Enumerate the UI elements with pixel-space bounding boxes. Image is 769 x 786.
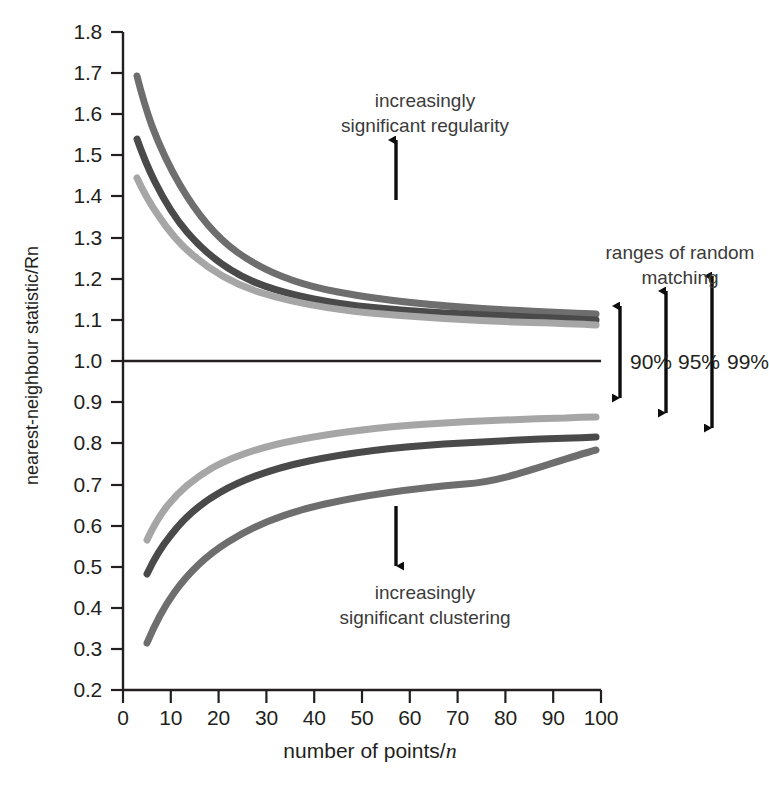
ytick-label: 0.8 — [40, 431, 102, 455]
xtick-label: 20 — [207, 706, 230, 730]
x-axis-title-variable: n — [446, 738, 457, 763]
ytick-label: 0.5 — [40, 555, 102, 579]
xtick-label: 40 — [303, 706, 326, 730]
ytick-label: 1.2 — [40, 267, 102, 291]
xtick-label: 10 — [159, 706, 182, 730]
curve-90-lower — [147, 417, 596, 540]
ytick-label: 1.1 — [40, 308, 102, 332]
x-axis-title: number of points/n — [0, 738, 740, 764]
xtick-label: 0 — [117, 706, 128, 730]
y-axis-title: nearest-neighbour statistic/Rn — [22, 216, 43, 516]
annotation-ranges-line1: ranges of random — [592, 240, 768, 265]
ytick-label: 1.7 — [40, 61, 102, 85]
ytick-label: 0.6 — [40, 514, 102, 538]
ytick-label: 0.9 — [40, 390, 102, 414]
ytick-label: 0.4 — [40, 596, 102, 620]
range-label-95: 95% — [678, 350, 720, 374]
xtick-label: 60 — [398, 706, 421, 730]
annotation-clustering: increasingly significant clustering — [300, 580, 550, 630]
xtick-label: 70 — [446, 706, 469, 730]
range-label-90: 90% — [630, 350, 672, 374]
annotation-clustering-line2: significant clustering — [300, 605, 550, 630]
annotation-ranges-of-random-matching: ranges of random matching — [592, 240, 768, 290]
annotation-regularity-line1: increasingly — [300, 88, 550, 113]
ytick-label: 1.4 — [40, 184, 102, 208]
xtick-label: 100 — [584, 706, 618, 730]
xtick-label: 80 — [494, 706, 517, 730]
annotation-ranges-line2: matching — [592, 265, 768, 290]
annotation-clustering-line1: increasingly — [300, 580, 550, 605]
x-axis-ticks — [123, 690, 601, 703]
ytick-label: 1.8 — [40, 20, 102, 44]
ytick-label: 1.6 — [40, 102, 102, 126]
data-curves — [137, 76, 596, 643]
x-axis-title-text: number of points/ — [283, 739, 445, 762]
ytick-label: 0.3 — [40, 637, 102, 661]
annotation-regularity: increasingly significant regularity — [300, 88, 550, 138]
xtick-label: 50 — [351, 706, 374, 730]
ytick-label: 0.2 — [40, 678, 102, 702]
annotation-regularity-line2: significant regularity — [300, 113, 550, 138]
range-label-99: 99% — [727, 350, 769, 374]
xtick-label: 90 — [542, 706, 565, 730]
ytick-label: 1.3 — [40, 226, 102, 250]
ytick-label: 1.0 — [40, 349, 102, 373]
ytick-label: 1.5 — [40, 143, 102, 167]
ytick-label: 0.7 — [40, 473, 102, 497]
curve-95-upper — [137, 139, 596, 320]
xtick-label: 30 — [255, 706, 278, 730]
y-axis-ticks — [111, 32, 123, 690]
